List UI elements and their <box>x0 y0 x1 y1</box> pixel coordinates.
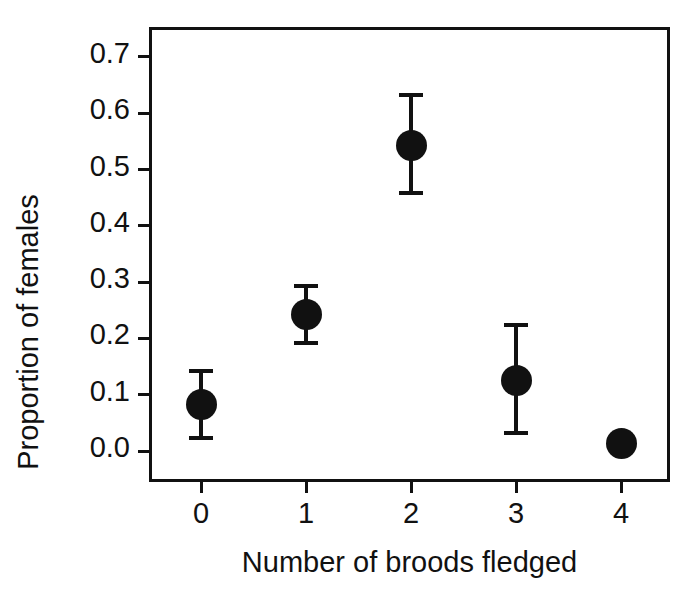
error-bar-cap-lower <box>294 341 318 345</box>
error-bar-cap-upper <box>189 369 213 373</box>
y-axis-tick-label: 0.3 <box>10 262 130 295</box>
y-axis-tick-label: 0.4 <box>10 206 130 239</box>
error-bar-cap-upper <box>504 323 528 327</box>
data-point-marker <box>501 365 532 396</box>
y-axis-tick <box>138 224 151 227</box>
x-axis-tick-label: 4 <box>586 497 656 530</box>
x-axis-tick-label: 1 <box>271 497 341 530</box>
x-axis-tick <box>410 480 413 493</box>
y-axis-tick-label: 0.7 <box>10 37 130 70</box>
error-bar-cap-lower <box>399 191 423 195</box>
x-axis-label: Number of broods fledged <box>149 546 670 579</box>
y-axis-tick <box>138 337 151 340</box>
data-point-marker <box>186 389 217 420</box>
data-point-marker <box>291 299 322 330</box>
x-axis-tick-label: 2 <box>376 497 446 530</box>
error-bar-cap-upper <box>399 93 423 97</box>
y-axis-tick <box>138 393 151 396</box>
y-axis-tick <box>138 450 151 453</box>
x-axis-tick <box>515 480 518 493</box>
y-axis-tick <box>138 281 151 284</box>
x-axis-tick-label: 0 <box>166 497 236 530</box>
y-axis-tick-label: 0.5 <box>10 150 130 183</box>
x-axis-tick-label: 3 <box>481 497 551 530</box>
y-axis-tick-label: 0.2 <box>10 318 130 351</box>
error-bar-cap-lower <box>504 431 528 435</box>
y-axis-tick <box>138 168 151 171</box>
x-axis-tick <box>305 480 308 493</box>
data-point-marker <box>606 428 637 459</box>
x-axis-tick <box>200 480 203 493</box>
error-bar-cap-upper <box>294 284 318 288</box>
y-axis-tick-label: 0.1 <box>10 375 130 408</box>
y-axis-tick <box>138 55 151 58</box>
y-axis-tick-labels: 0.00.10.20.30.40.50.60.7 <box>8 0 130 608</box>
error-bar-cap-lower <box>189 436 213 440</box>
y-axis-tick-label: 0.6 <box>10 93 130 126</box>
data-point-marker <box>396 130 427 161</box>
y-axis-tick-label: 0.0 <box>10 431 130 464</box>
y-axis-tick <box>138 112 151 115</box>
chart-figure: Proportion of females 0.00.10.20.30.40.5… <box>0 0 694 608</box>
x-axis-tick <box>620 480 623 493</box>
